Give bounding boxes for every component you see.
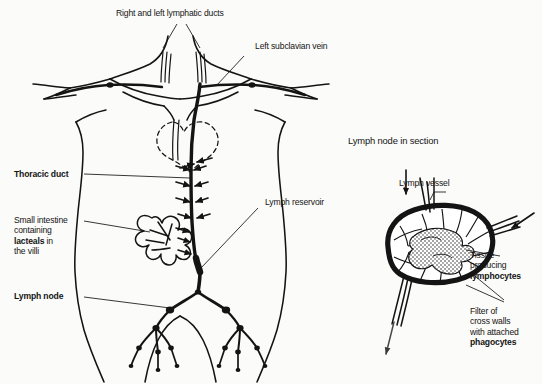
label-lymph-node: Lymph node bbox=[14, 291, 63, 301]
label-node-section-title: Lymph node in section bbox=[348, 136, 438, 146]
label-small-intestine: Small intestine containing lacteals in t… bbox=[14, 215, 100, 257]
filter-line-2: cross walls bbox=[470, 316, 510, 326]
heart-dashed-outline bbox=[157, 122, 218, 172]
tissue-line-2: producing bbox=[470, 260, 506, 270]
small-intestine-lacteals: lacteals bbox=[14, 236, 44, 246]
lymphatic-duct-vessels bbox=[161, 52, 206, 83]
small-intestine-line-2: containing bbox=[14, 225, 52, 235]
diagram-artboard bbox=[0, 0, 542, 384]
filter-line-3: with attached bbox=[470, 327, 519, 337]
label-lymphatic-ducts: Right and left lymphatic ducts bbox=[116, 8, 224, 18]
small-intestine-line-1: Small intestine bbox=[14, 215, 68, 225]
lymph-node-markers bbox=[107, 82, 268, 372]
label-lymph-vessel: Lymph vessel bbox=[399, 178, 449, 188]
label-thoracic-duct: Thoracic duct bbox=[14, 169, 68, 179]
lymphatic-system-diagram: Right and left lymphatic ducts Left subc… bbox=[0, 0, 542, 384]
filter-phagocytes: phagocytes bbox=[470, 337, 516, 347]
tissue-line-1: Tissue bbox=[470, 250, 494, 260]
tissue-lymphocytes: lymphocytes bbox=[470, 271, 521, 281]
body-outline bbox=[33, 36, 329, 382]
filter-line-1: Filter of bbox=[470, 306, 497, 316]
label-filter-cross-walls-phagocytes: Filter of cross walls with attached phag… bbox=[470, 306, 542, 348]
small-intestine-line-3-rest: in bbox=[44, 236, 53, 246]
label-lymph-reservoir: Lymph reservoir bbox=[265, 197, 324, 207]
small-intestine-line-4: the villi bbox=[14, 246, 39, 256]
label-tissue-producing-lymphocytes: Tissue producing lymphocytes bbox=[470, 250, 540, 281]
great-vessels bbox=[173, 120, 179, 160]
label-left-subclavian-vein: Left subclavian vein bbox=[255, 41, 327, 51]
lacteal-vessels bbox=[176, 228, 191, 254]
